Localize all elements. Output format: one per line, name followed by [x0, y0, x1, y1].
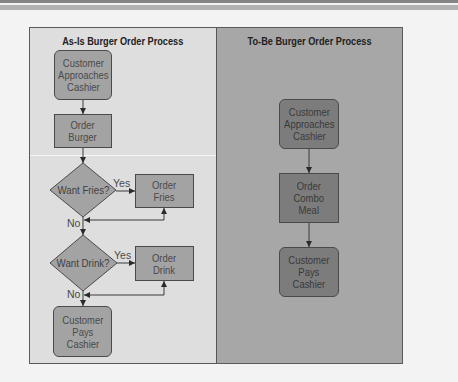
decision-want-drink-label: Want Drink? [50, 257, 117, 269]
tobe-node-order-combo-meal: Order Combo Meal [279, 173, 339, 223]
edge-label-drink-no: No [67, 289, 80, 300]
header-bar-dark [0, 0, 458, 3]
node-customer-approaches-cashier: Customer Approaches Cashier [54, 50, 112, 100]
to-be-title: To-Be Burger Order Process [217, 34, 402, 48]
edge-label-fries-no: No [67, 218, 80, 229]
node-customer-pays-cashier: Customer Pays Cashier [53, 306, 112, 357]
as-is-title: As-Is Burger Order Process [30, 34, 216, 48]
tobe-node-customer-approaches-cashier: Customer Approaches Cashier [279, 99, 339, 149]
panel-divider [216, 28, 217, 363]
node-order-burger: Order Burger [54, 114, 112, 148]
decision-want-fries-label: Want Fries? [50, 184, 116, 196]
fold-line [30, 155, 216, 156]
node-order-fries: Order Fries [135, 174, 194, 208]
node-order-drink: Order Drink [135, 246, 194, 281]
edge-label-drink-yes: Yes [114, 250, 131, 261]
tobe-node-customer-pays-cashier: Customer Pays Cashier [279, 247, 339, 297]
header-bar-light [0, 5, 458, 10]
edge-label-fries-yes: Yes [113, 178, 130, 189]
